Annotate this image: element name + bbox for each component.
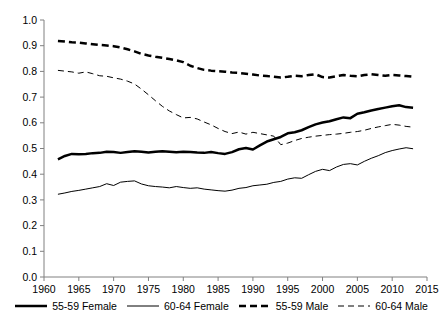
x-axis-tick-label: 1970 (102, 283, 126, 295)
chart-plot-area: 0.00.10.20.30.40.50.60.70.80.91.01960196… (0, 0, 442, 320)
y-axis-tick-label: 0.3 (22, 194, 37, 206)
series-line-55-59-male (58, 41, 413, 78)
series-line-60-64-female (58, 148, 413, 195)
y-axis-tick-label: 1.0 (22, 14, 37, 26)
y-axis-tick-label: 0.7 (22, 91, 37, 103)
series-line-55-59-female (58, 105, 413, 159)
y-axis-tick-label: 0.0 (22, 271, 37, 283)
y-axis-tick-label: 0.9 (22, 39, 37, 51)
line-chart: 0.00.10.20.30.40.50.60.70.80.91.01960196… (0, 0, 442, 320)
y-axis-tick-label: 0.5 (22, 142, 37, 154)
y-axis-tick-label: 0.6 (22, 116, 37, 128)
chart-legend: 55-59 Female60-64 Female55-59 Male60-64 … (0, 296, 442, 316)
y-axis-tick-label: 0.4 (22, 168, 37, 180)
x-axis-tick-label: 1980 (172, 283, 196, 295)
x-axis-tick-label: 1975 (137, 283, 161, 295)
legend-item: 55-59 Female (14, 301, 117, 312)
series-line-60-64-male (58, 70, 413, 144)
y-axis-tick-label: 0.1 (22, 245, 37, 257)
x-axis-tick-label: 1965 (67, 283, 91, 295)
legend-label: 55-59 Female (52, 301, 117, 312)
legend-label: 60-64 Male (375, 301, 428, 312)
legend-item: 55-59 Male (238, 301, 329, 312)
y-axis-tick-label: 0.8 (22, 65, 37, 77)
legend-swatch-thick-dashed (238, 301, 272, 311)
x-axis-tick-label: 2010 (381, 283, 405, 295)
legend-swatch-thick-solid (14, 301, 48, 311)
legend-label: 55-59 Male (276, 301, 329, 312)
x-axis-tick-label: 2000 (311, 283, 335, 295)
legend-swatch-thin-solid (126, 301, 160, 311)
legend-item: 60-64 Female (126, 301, 229, 312)
x-axis-tick-label: 1985 (206, 283, 230, 295)
y-axis-tick-label: 0.2 (22, 219, 37, 231)
x-axis-tick-label: 1995 (276, 283, 300, 295)
x-axis-tick-label: 2005 (346, 283, 370, 295)
x-axis-tick-label: 1990 (241, 283, 265, 295)
legend-label: 60-64 Female (164, 301, 229, 312)
x-axis-tick-label: 1960 (32, 283, 56, 295)
x-axis-tick-label: 2015 (415, 283, 439, 295)
legend-swatch-thin-dashed (337, 301, 371, 311)
legend-item: 60-64 Male (337, 301, 428, 312)
